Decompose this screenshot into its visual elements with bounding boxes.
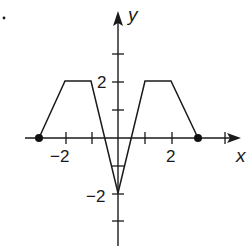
y-tick-label-neg2: −2 [86,188,105,205]
x-axis-label: x [236,146,246,165]
graph [0,0,249,246]
x-tick-label-neg2: −2 [50,148,69,165]
x-tick-label-2: 2 [166,148,175,165]
endpoint-left [35,134,43,142]
y-tick-label-2: 2 [97,74,106,91]
y-axis-label: y [128,5,138,24]
stray-dot [3,17,6,20]
endpoint-right [194,134,202,142]
